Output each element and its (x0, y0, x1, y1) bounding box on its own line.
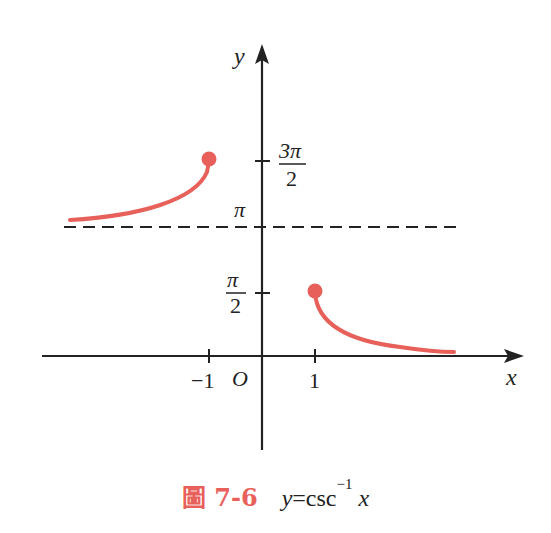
right-endpoint-dot (308, 284, 323, 299)
y-tick-label-pi: π (234, 197, 246, 222)
x-axis-label: x (505, 364, 517, 390)
x-tick-label-neg1: −1 (191, 368, 214, 393)
y-tick-label-pi-half-num: π (227, 267, 239, 292)
y-tick-label-3pi-half-den: 2 (286, 166, 297, 191)
x-tick-label-1: 1 (309, 368, 320, 393)
y-axis-label: y (232, 43, 245, 69)
figure-caption: 圖 7-6 y=csc−1 x (0, 478, 551, 513)
eq-y: y (282, 485, 293, 511)
right-branch-curve (315, 293, 454, 352)
caption-equation: y=csc−1 x (282, 485, 369, 511)
origin-label: O (232, 366, 248, 391)
eq-sup: −1 (336, 476, 352, 492)
left-branch-curve (70, 161, 209, 220)
figure-label: 圖 7-6 (182, 483, 258, 512)
y-tick-label-3pi-half-num: 3π (278, 138, 302, 163)
y-tick-label-pi-half-den: 2 (230, 293, 241, 318)
left-endpoint-dot (202, 152, 217, 167)
eq-x: x (358, 485, 369, 511)
chart-canvas: y x O −1 1 3π 2 π π 2 (0, 0, 551, 533)
eq-csc: =csc (292, 485, 336, 511)
